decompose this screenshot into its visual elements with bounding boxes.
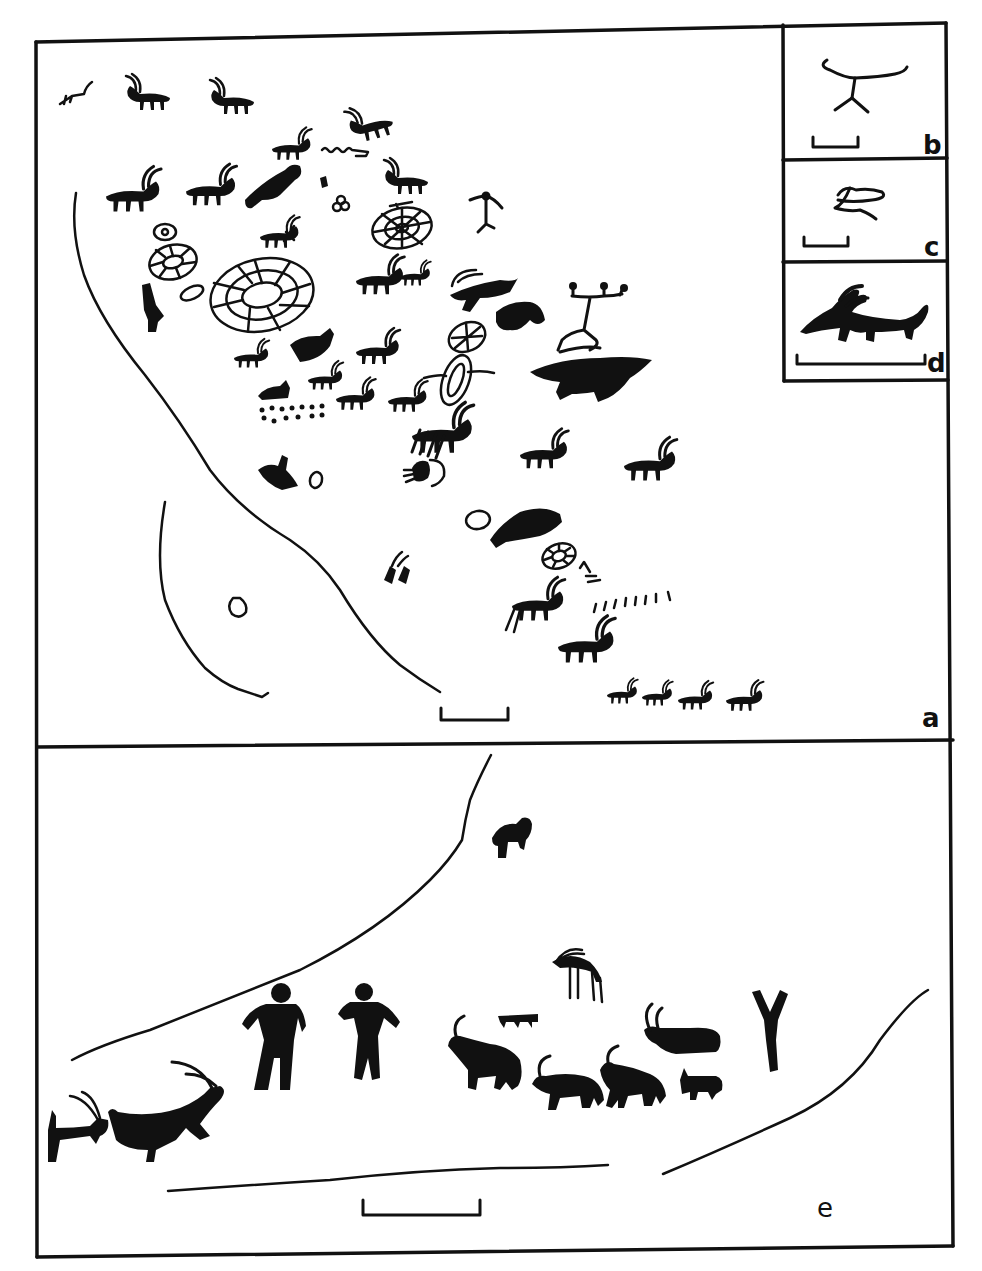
scale-bar-b [813, 137, 858, 147]
ibex-center-2 [532, 1056, 604, 1110]
inset-b-figure [823, 60, 907, 112]
small-quadruped-2 [680, 1068, 722, 1100]
scale-bar-c [804, 237, 848, 246]
inset-d-ibex [800, 286, 928, 342]
panel-e-figures [48, 818, 788, 1162]
petroglyph-plate [0, 0, 982, 1271]
scale-bar-d [797, 355, 925, 364]
human-figure-1 [242, 983, 306, 1090]
panel-label-d: d [927, 350, 946, 376]
ibex-center-3 [600, 1046, 666, 1108]
human-figure-2 [338, 983, 400, 1080]
panel-label-b: b [923, 132, 942, 158]
ibex-left-large [108, 1062, 224, 1162]
panel-label-c: c [924, 234, 939, 260]
panel-a-animals [60, 74, 763, 711]
scale-bar-e [363, 1200, 480, 1215]
ibex-left-small [48, 1092, 108, 1162]
leaping-animal [245, 165, 301, 209]
ibex-center-1 [448, 1016, 522, 1090]
ibex-resting [644, 1004, 721, 1054]
ibex-long-legs [552, 949, 602, 1002]
panel-a-dot-rows [260, 404, 325, 424]
anthropomorph-small [470, 193, 502, 232]
panel-label-a: a [922, 705, 940, 731]
small-quadruped [498, 1014, 538, 1028]
panel-label-e: e [817, 1195, 833, 1221]
scale-bar-a [441, 708, 508, 720]
rider-figure [530, 282, 652, 402]
panel-a-tick-row [594, 592, 670, 612]
small-animal-tl [60, 82, 92, 104]
human-figure-3-arms-raised [752, 990, 788, 1072]
inset-c-sign [835, 188, 884, 219]
panel-a-wheel-motifs [145, 148, 579, 617]
